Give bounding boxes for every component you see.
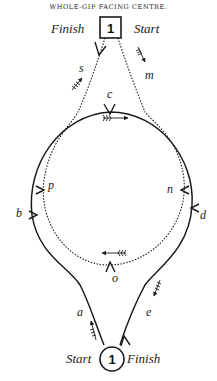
arrow-s-icon: [72, 78, 82, 90]
point-a-label: a: [77, 305, 83, 319]
point-m-label: m: [145, 68, 154, 82]
bottom-finish-label: Finish: [126, 351, 160, 366]
top-station-number: 1: [107, 21, 114, 36]
bottom-station-number: 1: [108, 352, 115, 367]
top-finish-label: Finish: [50, 21, 84, 36]
point-o-label: o: [112, 271, 118, 285]
point-s-label: s: [79, 61, 84, 75]
chevron-o-icon: [106, 262, 115, 272]
arrow-o-icon: [102, 250, 126, 256]
point-e-label: e: [146, 305, 152, 319]
top-start-label: Start: [134, 21, 160, 36]
arrow-m-icon: [136, 47, 145, 62]
point-b-label: b: [16, 206, 22, 220]
point-c-label: c: [107, 87, 113, 101]
chevron-top-finish-icon: [95, 42, 106, 55]
bottom-start-label: Start: [66, 351, 92, 366]
figure-diagram: 1 Finish Start 1 Start Finish s m c p b …: [0, 0, 217, 381]
arrow-a-icon: [90, 321, 96, 340]
outer-solid-track: [31, 112, 192, 345]
arrow-e-icon: [154, 280, 161, 296]
point-p-label: p: [47, 178, 54, 192]
inner-dotted-track: [43, 38, 184, 265]
chevron-markers: [29, 42, 199, 346]
arrow-c-icon: [103, 115, 128, 121]
chevron-n-icon: [181, 186, 189, 194]
point-d-label: d: [200, 208, 207, 222]
point-n-label: n: [167, 182, 173, 196]
